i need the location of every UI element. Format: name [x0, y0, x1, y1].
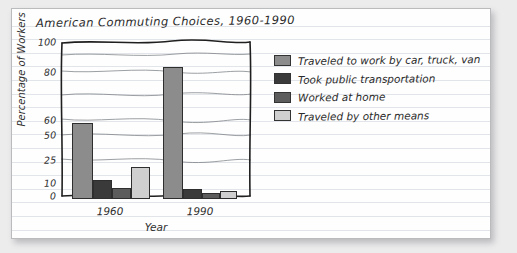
x-tick-1960: 1960 — [97, 205, 124, 217]
bar-1960-car — [72, 123, 93, 199]
x-axis-label: Year — [145, 221, 167, 233]
bar-1990-home — [202, 193, 220, 199]
y-tick-60: 60 — [44, 114, 56, 125]
legend-swatch-public-transportation — [274, 73, 291, 84]
bar-1960-home — [112, 188, 131, 199]
legend-label-other-means: Traveled by other means — [298, 109, 429, 122]
legend-label-worked-at-home: Worked at home — [298, 91, 385, 104]
legend-item-car: Traveled to work by car, truck, van — [274, 51, 486, 70]
bar-1990-public — [183, 189, 202, 199]
bar-1990-other — [220, 191, 237, 199]
y-tick-50: 50 — [44, 129, 56, 140]
y-tick-10: 10 — [44, 177, 56, 188]
plot-area: 100 80 60 50 25 10 0 — [60, 39, 252, 199]
legend-item-worked-at-home: Worked at home — [274, 88, 486, 107]
legend-label-car: Traveled to work by car, truck, van — [298, 53, 481, 67]
y-tick-0: 0 — [50, 190, 56, 201]
legend-label-public-transportation: Took public transportation — [298, 72, 436, 85]
bar-1990-car — [163, 67, 183, 199]
legend-item-other-means: Traveled by other means — [274, 107, 486, 126]
chart-title: American Commuting Choices, 1960-1990 — [36, 13, 295, 30]
legend-item-public-transportation: Took public transportation — [274, 70, 486, 89]
y-axis-label: Percentage of Workers — [16, 12, 27, 126]
legend-swatch-other-means — [274, 110, 291, 121]
bar-1960-other — [131, 167, 150, 199]
legend-swatch-worked-at-home — [274, 92, 291, 103]
y-tick-100: 100 — [38, 36, 56, 47]
legend-swatch-car — [274, 55, 291, 66]
y-tick-80: 80 — [44, 66, 56, 77]
x-tick-1990: 1990 — [187, 205, 214, 217]
screenshot-root: American Commuting Choices, 1960-1990 Pe… — [0, 0, 517, 253]
bar-chart: American Commuting Choices, 1960-1990 Pe… — [12, 9, 490, 238]
notebook-paper-card: American Commuting Choices, 1960-1990 Pe… — [11, 8, 491, 239]
y-tick-25: 25 — [44, 154, 56, 165]
bar-1960-public — [93, 180, 112, 199]
chart-legend: Traveled to work by car, truck, van Took… — [274, 51, 486, 125]
